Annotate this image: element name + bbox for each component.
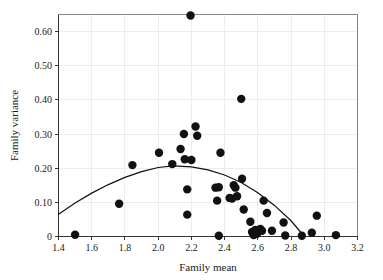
data-point: [258, 226, 266, 234]
data-point: [238, 175, 246, 183]
data-point: [332, 231, 340, 239]
data-point: [263, 209, 271, 217]
x-tick-label: 2.8: [285, 242, 298, 253]
data-point: [240, 205, 248, 213]
data-point: [231, 183, 239, 191]
chart-figure: 1.41.61.82.02.22.42.62.83.03.2 00.100.20…: [0, 0, 383, 280]
data-point: [215, 232, 223, 240]
x-tick-label: 1.6: [85, 242, 98, 253]
y-tick-label: 0: [47, 231, 52, 242]
data-point: [71, 231, 79, 239]
data-point: [298, 232, 306, 240]
data-point: [191, 122, 199, 130]
data-point: [180, 130, 188, 138]
data-point: [168, 160, 176, 168]
data-point: [187, 156, 195, 164]
y-axis-title: Family variance: [8, 90, 20, 161]
data-point: [215, 183, 223, 191]
data-point: [213, 196, 221, 204]
data-point: [279, 218, 287, 226]
x-axis-title: Family mean: [179, 261, 237, 273]
data-point: [128, 161, 136, 169]
scatter-plot: 1.41.61.82.02.22.42.62.83.03.2 00.100.20…: [0, 0, 383, 280]
data-point: [193, 132, 201, 140]
x-tick-label: 2.0: [152, 242, 165, 253]
x-tick-label: 2.6: [252, 242, 265, 253]
data-point: [176, 145, 184, 153]
x-tick-label: 2.4: [218, 242, 231, 253]
data-point: [268, 226, 276, 234]
x-tick-label: 1.8: [119, 242, 132, 253]
data-point: [183, 210, 191, 218]
x-tick-label: 3.2: [351, 242, 364, 253]
data-point: [115, 200, 123, 208]
data-point: [246, 218, 254, 226]
x-tick-label: 3.0: [318, 242, 331, 253]
y-tick-label: 0.40: [35, 94, 53, 105]
data-point: [308, 229, 316, 237]
data-point: [259, 196, 267, 204]
data-point: [186, 11, 194, 19]
y-tick-label: 0.30: [35, 129, 53, 140]
data-point: [237, 95, 245, 103]
y-tick-label: 0.20: [35, 163, 53, 174]
data-point: [216, 149, 224, 157]
data-point: [155, 149, 163, 157]
x-tick-label: 1.4: [52, 242, 65, 253]
y-tick-label: 0.10: [35, 197, 53, 208]
data-point: [281, 231, 289, 239]
y-tick-label: 0.60: [35, 26, 53, 37]
data-point: [233, 192, 241, 200]
x-tick-label: 2.2: [185, 242, 198, 253]
data-point: [183, 185, 191, 193]
data-point: [313, 211, 321, 219]
y-tick-label: 0.50: [35, 60, 53, 71]
